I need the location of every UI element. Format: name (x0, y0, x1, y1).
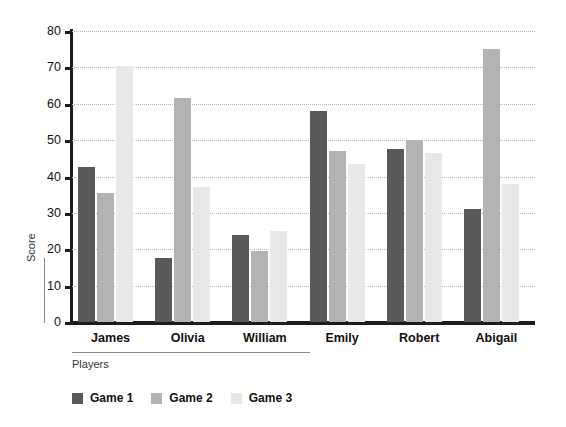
legend-item[interactable]: Game 2 (151, 391, 212, 405)
y-axis-tick-label: 40 (47, 170, 61, 184)
y-axis-title: Score (25, 233, 37, 262)
y-axis-tick-mark (65, 286, 71, 289)
y-axis-tick-mark (65, 67, 71, 70)
chart-legend: Game 1Game 2Game 3 (72, 391, 300, 405)
x-axis-category-label: Abigail (458, 331, 535, 345)
legend-swatch-icon (151, 393, 162, 404)
legend-item[interactable]: Game 3 (231, 391, 292, 405)
bar[interactable] (387, 149, 404, 322)
y-axis-tick-mark (65, 140, 71, 143)
legend-item[interactable]: Game 1 (72, 391, 133, 405)
bar[interactable] (270, 231, 287, 322)
bar[interactable] (483, 49, 500, 322)
y-axis-tick-label: 80 (47, 24, 61, 38)
bar[interactable] (310, 111, 327, 322)
y-axis-tick-mark (65, 249, 71, 252)
bar[interactable] (155, 258, 172, 322)
y-axis-tick-label: 60 (47, 97, 61, 111)
y-axis-tick-mark (65, 31, 71, 34)
legend-label: Game 3 (249, 391, 292, 405)
bar[interactable] (464, 209, 481, 322)
x-axis-category-label: Olivia (149, 331, 226, 345)
x-axis-category-label: Robert (381, 331, 458, 345)
bar[interactable] (193, 187, 210, 322)
y-axis-tick-label: 50 (47, 133, 61, 147)
y-axis-tick-mark (65, 322, 71, 325)
bar[interactable] (78, 167, 95, 322)
bar-group: James (72, 31, 149, 322)
legend-swatch-icon (72, 393, 83, 404)
y-axis-tick-mark (65, 104, 71, 107)
x-axis-category-label: William (226, 331, 303, 345)
legend-label: Game 2 (169, 391, 212, 405)
y-axis-tick-label: 70 (47, 60, 61, 74)
y-axis-tick-label: 30 (47, 206, 61, 220)
bar[interactable] (406, 140, 423, 322)
x-axis-category-label: James (72, 331, 149, 345)
y-axis-tick-mark (65, 213, 71, 216)
bar[interactable] (174, 98, 191, 322)
chart-page: 01020304050607080 JamesOliviaWilliamEmil… (0, 0, 566, 427)
bar-group: Robert (381, 31, 458, 322)
legend-label: Game 1 (90, 391, 133, 405)
plot-area: 01020304050607080 JamesOliviaWilliamEmil… (72, 31, 535, 322)
bar-group: Abigail (458, 31, 535, 322)
bar[interactable] (502, 184, 519, 322)
bar[interactable] (251, 251, 268, 322)
bar[interactable] (425, 153, 442, 322)
y-axis-tick-label: 20 (47, 242, 61, 256)
y-axis-tick-mark (65, 177, 71, 180)
bar-group: Emily (304, 31, 381, 322)
x-axis-title: Players (72, 358, 109, 370)
bar[interactable] (97, 193, 114, 322)
bar[interactable] (329, 151, 346, 322)
bar[interactable] (116, 66, 133, 322)
x-axis-title-rule (72, 352, 310, 353)
bar[interactable] (232, 235, 249, 322)
y-axis-title-rule (44, 258, 45, 323)
bar-group: Olivia (149, 31, 226, 322)
y-axis-tick-label: 10 (47, 279, 61, 293)
x-axis-category-label: Emily (304, 331, 381, 345)
bar-group: William (226, 31, 303, 322)
y-axis-tick-label: 0 (54, 315, 61, 329)
legend-swatch-icon (231, 393, 242, 404)
bar[interactable] (348, 164, 365, 322)
